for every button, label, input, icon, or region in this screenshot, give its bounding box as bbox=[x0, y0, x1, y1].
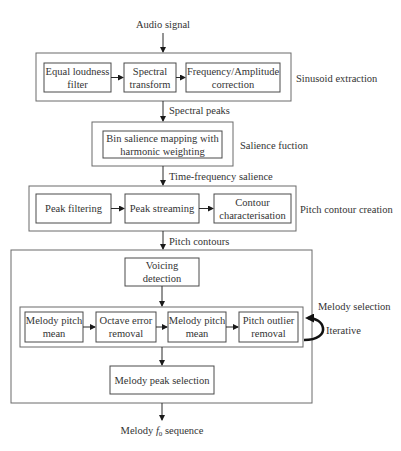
iterative-label: Iterative bbox=[326, 325, 361, 336]
block-text: characterisation bbox=[219, 210, 286, 221]
melody-extraction-diagram: Audio signal Equal loudness filter Spect… bbox=[0, 0, 401, 451]
block-text: Melody peak selection bbox=[114, 375, 210, 386]
stage-label: Salience fuction bbox=[240, 140, 309, 151]
block-text: Melody pitch bbox=[26, 315, 83, 326]
block-text: detection bbox=[143, 273, 182, 284]
stage-label: Sinusoid extraction bbox=[296, 73, 378, 84]
block-text: Spectral bbox=[133, 66, 167, 77]
input-label: Audio signal bbox=[136, 19, 190, 30]
block-text: Pitch outlier bbox=[243, 315, 295, 326]
block-text: Contour bbox=[235, 197, 270, 208]
stage-label: Melody selection bbox=[318, 301, 391, 312]
block-text: harmonic weighting bbox=[120, 146, 205, 157]
block-text: Equal loudness bbox=[46, 66, 110, 77]
block-text: filter bbox=[67, 79, 88, 90]
stage-melody-selection: Voicing detection Melody pitch mean Octa… bbox=[11, 250, 391, 403]
block-text: Frequency/Amplitude bbox=[187, 66, 279, 77]
block-text: removal bbox=[251, 328, 285, 339]
block-text: mean bbox=[43, 328, 66, 339]
stage-sinusoid-extraction: Equal loudness filter Spectral transform… bbox=[36, 53, 378, 101]
block-text: Voicing bbox=[146, 260, 179, 271]
block-text: correction bbox=[212, 79, 255, 90]
stage-salience-function: Bin salience mapping with harmonic weigh… bbox=[92, 122, 309, 166]
block-text: Peak filtering bbox=[45, 203, 103, 214]
block-text: transform bbox=[130, 79, 171, 90]
block-text: mean bbox=[186, 328, 209, 339]
edge-label: Pitch contours bbox=[169, 236, 229, 247]
stage-label: Pitch contour creation bbox=[300, 204, 393, 215]
iterative-loop-arrow-icon bbox=[304, 318, 323, 340]
output-label: Melody f0 sequence bbox=[121, 425, 204, 438]
block-text: Melody pitch bbox=[169, 315, 226, 326]
edge-label: Spectral peaks bbox=[169, 105, 230, 116]
stage-pitch-contour-creation: Peak filtering Peak streaming Contour ch… bbox=[29, 186, 393, 231]
block-text: Bin salience mapping with bbox=[106, 133, 219, 144]
block-text: Peak streaming bbox=[130, 203, 195, 214]
edge-label: Time-frequency salience bbox=[169, 171, 273, 182]
block-text: Octave error bbox=[100, 315, 153, 326]
block-text: removal bbox=[109, 328, 143, 339]
